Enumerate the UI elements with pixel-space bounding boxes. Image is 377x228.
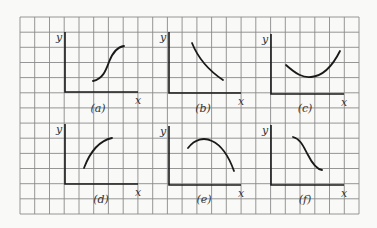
panel-label: (f) bbox=[299, 193, 312, 206]
function-curve bbox=[188, 139, 234, 171]
panel-a: yx(a) bbox=[55, 31, 142, 115]
axes bbox=[65, 124, 138, 184]
y-axis-label: y bbox=[261, 33, 269, 46]
axes bbox=[169, 126, 241, 185]
panel-label: (d) bbox=[93, 193, 109, 206]
x-axis-label: x bbox=[135, 186, 142, 199]
y-axis-label: y bbox=[159, 125, 167, 138]
x-axis-label: x bbox=[341, 96, 348, 109]
x-axis-label: x bbox=[341, 187, 348, 200]
x-axis-label: x bbox=[135, 94, 142, 107]
y-axis-label: y bbox=[159, 31, 167, 44]
panels: yx(a)yx(b)yx(c)yx(d)yx(e)yx(f) bbox=[55, 31, 348, 206]
function-curve bbox=[286, 51, 340, 77]
panel-label: (a) bbox=[90, 102, 105, 115]
panel-f: yx(f) bbox=[261, 124, 348, 206]
x-axis-label: x bbox=[238, 187, 245, 200]
panel-label: (b) bbox=[195, 102, 211, 115]
panel-label: (c) bbox=[298, 102, 313, 115]
axes bbox=[65, 32, 138, 92]
panel-d: yx(d) bbox=[55, 123, 142, 206]
panel-e: yx(e) bbox=[159, 125, 245, 206]
y-axis-label: y bbox=[55, 31, 63, 44]
y-axis-label: y bbox=[261, 124, 269, 137]
panel-b: yx(b) bbox=[159, 31, 245, 115]
panel-c: yx(c) bbox=[261, 33, 348, 115]
x-axis-label: x bbox=[238, 95, 245, 108]
function-shape-figure: yx(a)yx(b)yx(c)yx(d)yx(e)yx(f) bbox=[0, 0, 377, 228]
y-axis-label: y bbox=[55, 123, 63, 136]
panel-label: (e) bbox=[196, 193, 211, 206]
